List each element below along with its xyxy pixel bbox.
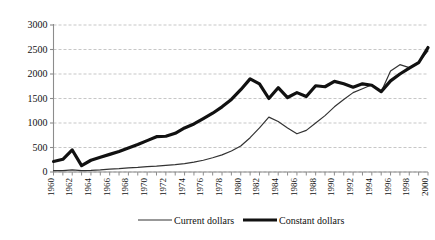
x-tick-label: 1986 bbox=[289, 178, 299, 197]
chart-container: 050010001500200025003000 196019621964196… bbox=[0, 0, 435, 240]
x-tick-label: 1966 bbox=[102, 178, 112, 197]
legend-label: Current dollars bbox=[174, 215, 234, 226]
x-tick-label: 1976 bbox=[195, 178, 205, 197]
x-tick-label: 1978 bbox=[214, 178, 224, 197]
chart-legend: Current dollarsConstant dollars bbox=[138, 215, 344, 226]
y-tick-label: 2000 bbox=[28, 68, 48, 79]
series-line bbox=[54, 51, 429, 171]
x-tick-label: 1996 bbox=[383, 178, 393, 197]
x-tick-label: 1970 bbox=[139, 178, 149, 197]
y-tick-label: 1500 bbox=[28, 93, 48, 104]
x-tick-label: 1990 bbox=[326, 178, 336, 197]
y-tick-label: 3000 bbox=[28, 19, 48, 30]
x-tick-labels: 1960196219641966196819701972197419761978… bbox=[46, 178, 431, 197]
y-tick-labels: 050010001500200025003000 bbox=[28, 19, 48, 177]
x-axis bbox=[54, 172, 429, 176]
x-tick-label: 1998 bbox=[401, 178, 411, 197]
x-tick-label: 1982 bbox=[251, 178, 261, 196]
y-tick-label: 1000 bbox=[28, 117, 48, 128]
line-chart: 050010001500200025003000 196019621964196… bbox=[0, 0, 435, 240]
grid-lines bbox=[54, 25, 429, 172]
y-tick-label: 500 bbox=[33, 142, 48, 153]
y-axis bbox=[50, 24, 54, 172]
y-tick-label: 2500 bbox=[28, 44, 48, 55]
x-tick-label: 1994 bbox=[364, 178, 374, 197]
series-line bbox=[54, 48, 429, 166]
y-tick-label: 0 bbox=[43, 166, 48, 177]
x-tick-label: 1974 bbox=[177, 178, 187, 197]
x-tick-label: 1984 bbox=[270, 178, 280, 197]
series-current-dollars bbox=[54, 51, 429, 171]
x-tick-label: 1980 bbox=[233, 178, 243, 197]
x-tick-label: 1992 bbox=[345, 178, 355, 196]
x-tick-label: 1988 bbox=[308, 178, 318, 197]
x-tick-label: 1962 bbox=[64, 178, 74, 196]
x-tick-label: 2000 bbox=[420, 178, 430, 197]
legend-label: Constant dollars bbox=[279, 215, 344, 226]
x-tick-label: 1968 bbox=[120, 178, 130, 197]
x-tick-label: 1960 bbox=[46, 178, 56, 197]
series-constant-dollars bbox=[54, 48, 429, 166]
x-tick-label: 1972 bbox=[158, 178, 168, 196]
x-tick-label: 1964 bbox=[83, 178, 93, 197]
